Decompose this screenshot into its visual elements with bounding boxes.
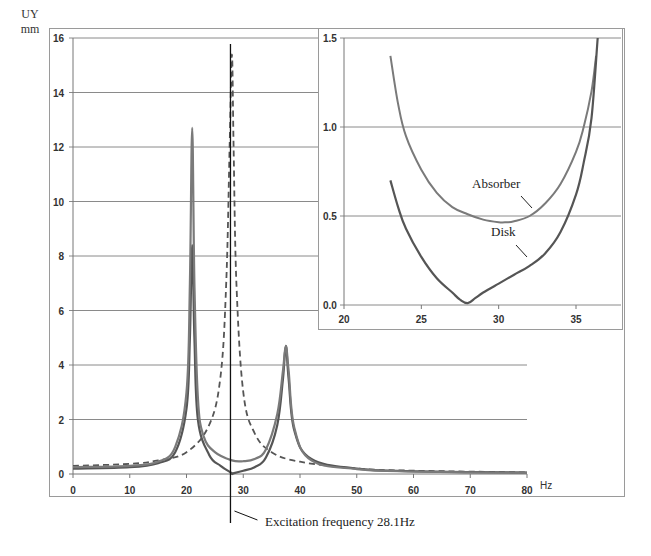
x-tick-label: 60 bbox=[408, 485, 420, 496]
x-tick-label: 0 bbox=[70, 485, 76, 496]
inset-x-tick-label: 35 bbox=[570, 314, 582, 325]
y-tick-label: 10 bbox=[53, 197, 65, 208]
y-tick-label: 14 bbox=[53, 88, 65, 99]
x-axis-unit-label: Hz bbox=[540, 480, 552, 491]
y-tick-label: 16 bbox=[53, 33, 65, 44]
inset-frame bbox=[319, 29, 623, 330]
y-axis-unit-line2: mm bbox=[12, 22, 48, 37]
y-tick-label: 6 bbox=[58, 306, 64, 317]
x-tick-label: 50 bbox=[351, 485, 363, 496]
x-tick-label: 20 bbox=[181, 485, 193, 496]
x-tick-label: 80 bbox=[521, 485, 533, 496]
inset-x-tick-label: 20 bbox=[338, 314, 350, 325]
y-tick-label: 8 bbox=[58, 251, 64, 262]
inset-y-tick-label: 0.0 bbox=[323, 300, 337, 311]
excitation-frequency-annotation: Excitation frequency 28.1Hz bbox=[265, 514, 415, 530]
inset-y-tick-label: 0.5 bbox=[323, 211, 337, 222]
inset-y-tick-label: 1.5 bbox=[323, 33, 337, 44]
y-tick-label: 0 bbox=[58, 469, 64, 480]
inset-y-tick-label: 1.0 bbox=[323, 122, 337, 133]
inset-disk-label: Disk bbox=[491, 224, 516, 240]
y-axis-unit-line1: UY bbox=[12, 7, 48, 22]
inset-x-tick-label: 25 bbox=[416, 314, 428, 325]
excitation-leader-line bbox=[234, 511, 257, 520]
inset-chart: 0.00.51.01.520253035 bbox=[319, 29, 623, 330]
inset-absorber-label: Absorber bbox=[472, 176, 520, 192]
main-chart: 0246810121416010203040506070800.00.51.01… bbox=[0, 0, 651, 556]
y-tick-label: 12 bbox=[53, 142, 65, 153]
figure: 0246810121416010203040506070800.00.51.01… bbox=[0, 0, 651, 556]
y-tick-label: 4 bbox=[58, 360, 64, 371]
y-tick-label: 2 bbox=[58, 415, 64, 426]
x-tick-label: 40 bbox=[294, 485, 306, 496]
x-tick-label: 10 bbox=[124, 485, 136, 496]
inset-x-tick-label: 30 bbox=[493, 314, 505, 325]
y-axis-unit-label: UY mm bbox=[12, 7, 48, 37]
x-tick-label: 70 bbox=[465, 485, 477, 496]
x-tick-label: 30 bbox=[238, 485, 250, 496]
